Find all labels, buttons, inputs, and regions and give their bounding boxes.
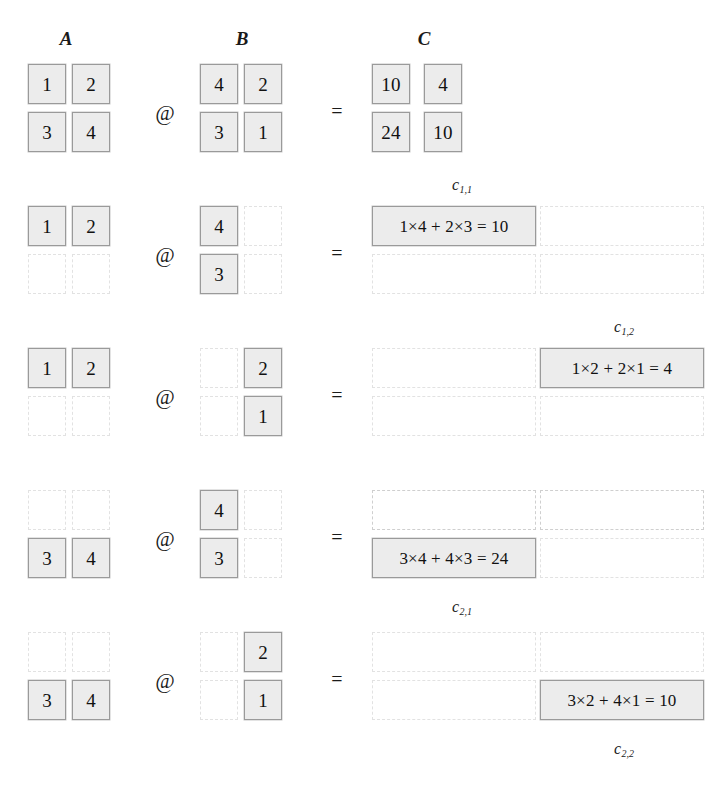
matrix-c-cell-2-1-step-full: 24	[372, 112, 410, 152]
matrix-c-cell-1-2-step-full: 4	[424, 64, 462, 104]
matrix-c-cell-1-1-step-c21	[372, 490, 536, 530]
matrix-a-cell-2-1-step-c22: 3	[28, 680, 66, 720]
result-label-subscript: 1,2	[622, 326, 635, 337]
matrix-b-cell-2-2-step-c22: 1	[244, 680, 282, 720]
matrix-b-cell-2-2-step-full: 1	[244, 112, 282, 152]
matmul-operator-step-c22: @	[148, 669, 182, 694]
matrix-c-cell-1-1-step-c22	[372, 632, 536, 672]
matrix-c-cell-1-2-step-c12: 1×2 + 2×1 = 4	[540, 348, 704, 388]
result-label-c-1-2: c1,2	[614, 318, 634, 336]
result-label-c-1-1: c1,1	[452, 176, 472, 194]
matrix-c-cell-1-1-step-c11: 1×4 + 2×3 = 10	[372, 206, 536, 246]
result-label-base: c	[452, 598, 459, 615]
matrix-b-cell-2-1-step-c21: 3	[200, 538, 238, 578]
matrix-b-cell-1-1-step-c12	[200, 348, 238, 388]
matrix-a-cell-2-2-step-c21: 4	[72, 538, 110, 578]
matrix-a-cell-2-2-step-c11	[72, 254, 110, 294]
matrix-c-cell-2-2-step-c12	[540, 396, 704, 436]
matrix-a-cell-1-1-step-c12: 1	[28, 348, 66, 388]
matrix-c-cell-2-2-step-c11	[540, 254, 704, 294]
matrix-b-cell-2-1-step-full: 3	[200, 112, 238, 152]
matrix-b-cell-2-2-step-c21	[244, 538, 282, 578]
matrix-a-cell-2-2-step-c22: 4	[72, 680, 110, 720]
matrix-b-cell-1-1-step-c21: 4	[200, 490, 238, 530]
matrix-b-cell-2-2-step-c12: 1	[244, 396, 282, 436]
matrix-c-cell-2-1-step-c21: 3×4 + 4×3 = 24	[372, 538, 536, 578]
matrix-a-cell-2-2-step-full: 4	[72, 112, 110, 152]
matrix-a-cell-1-2-step-c11: 2	[72, 206, 110, 246]
equals-operator-step-c22: =	[320, 668, 354, 691]
matmul-operator-step-c11: @	[148, 243, 182, 268]
matrix-a-cell-1-2-step-full: 2	[72, 64, 110, 104]
matrix-b-cell-1-2-step-full: 2	[244, 64, 282, 104]
matrix-a-cell-2-1-step-c11	[28, 254, 66, 294]
equals-operator-step-c11: =	[320, 242, 354, 265]
matrix-c-cell-1-2-step-c22	[540, 632, 704, 672]
matrix-b-cell-1-1-step-c22	[200, 632, 238, 672]
result-label-base: c	[452, 176, 459, 193]
matrix-a-cell-2-1-step-c12	[28, 396, 66, 436]
matmul-operator-step-c21: @	[148, 527, 182, 552]
matrix-multiplication-diagram: A B C 1234@4231=104241012@43=1×4 + 2×3 =…	[0, 0, 726, 787]
matrix-b-cell-1-2-step-c22: 2	[244, 632, 282, 672]
matrix-a-cell-1-1-step-full: 1	[28, 64, 66, 104]
result-label-base: c	[614, 740, 621, 757]
matrix-c-cell-1-2-step-c21	[540, 490, 704, 530]
matmul-operator-step-full: @	[148, 101, 182, 126]
matrix-b-cell-2-1-step-c11: 3	[200, 254, 238, 294]
equals-operator-step-full: =	[320, 100, 354, 123]
equals-operator-step-c21: =	[320, 526, 354, 549]
matrix-b-cell-2-1-step-c22	[200, 680, 238, 720]
matrix-c-cell-1-2-step-c11	[540, 206, 704, 246]
result-label-c-2-1: c2,1	[452, 598, 472, 616]
matrix-c-cell-1-1-step-c12	[372, 348, 536, 388]
matrix-a-cell-1-2-step-c21	[72, 490, 110, 530]
matrix-b-cell-1-1-step-c11: 4	[200, 206, 238, 246]
matrix-b-cell-1-1-step-full: 4	[200, 64, 238, 104]
matrix-c-cell-2-1-step-c12	[372, 396, 536, 436]
matrix-a-cell-2-1-step-full: 3	[28, 112, 66, 152]
matrix-c-cell-2-1-step-c11	[372, 254, 536, 294]
matrix-a-cell-1-2-step-c22	[72, 632, 110, 672]
result-label-c-2-2: c2,2	[614, 740, 634, 758]
matrix-a-cell-1-1-step-c11: 1	[28, 206, 66, 246]
matrix-c-cell-2-2-step-c22: 3×2 + 4×1 = 10	[540, 680, 704, 720]
matrix-a-cell-1-1-step-c21	[28, 490, 66, 530]
result-label-base: c	[614, 318, 621, 335]
matrix-c-cell-2-2-step-full: 10	[424, 112, 462, 152]
matrix-a-cell-2-1-step-c21: 3	[28, 538, 66, 578]
equals-operator-step-c12: =	[320, 384, 354, 407]
matmul-operator-step-c12: @	[148, 385, 182, 410]
matrix-c-cell-1-1-step-full: 10	[372, 64, 410, 104]
matrix-a-cell-1-2-step-c12: 2	[72, 348, 110, 388]
matrix-a-cell-2-2-step-c12	[72, 396, 110, 436]
matrix-b-cell-2-2-step-c11	[244, 254, 282, 294]
result-label-subscript: 2,2	[622, 748, 635, 759]
matrix-c-header: C	[404, 28, 444, 50]
matrix-b-cell-1-2-step-c12: 2	[244, 348, 282, 388]
matrix-c-cell-2-2-step-c21	[540, 538, 704, 578]
matrix-b-header: B	[222, 28, 262, 50]
matrix-a-header: A	[46, 28, 86, 50]
matrix-c-cell-2-1-step-c22	[372, 680, 536, 720]
result-label-subscript: 2,1	[460, 606, 473, 617]
result-label-subscript: 1,1	[460, 184, 473, 195]
matrix-b-cell-1-2-step-c11	[244, 206, 282, 246]
matrix-b-cell-1-2-step-c21	[244, 490, 282, 530]
matrix-b-cell-2-1-step-c12	[200, 396, 238, 436]
matrix-a-cell-1-1-step-c22	[28, 632, 66, 672]
